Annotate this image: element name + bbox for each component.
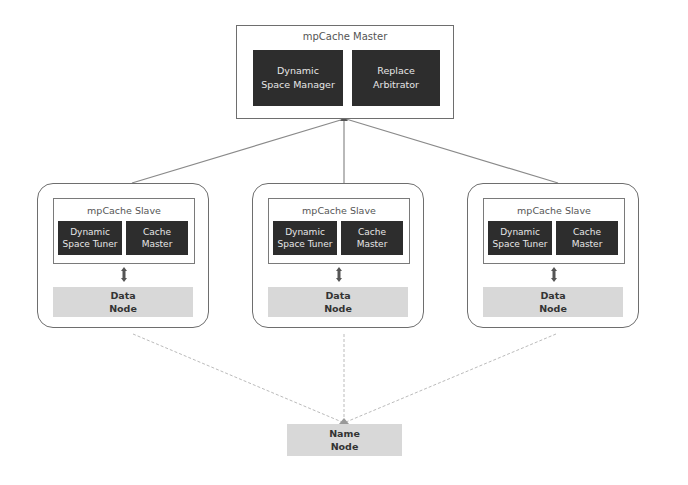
name-node: Name Node — [287, 424, 402, 456]
master-to-slave3-line — [346, 119, 558, 183]
bidirectional-arrow-icon — [121, 267, 127, 282]
dynamic-space-manager-component: Dynamic Space Manager — [253, 50, 343, 106]
data-node: Data Node — [268, 287, 408, 317]
slave-title: mpCache Slave — [269, 205, 409, 216]
mpcache-master-box: mpCache Master Dynamic Space Manager Rep… — [236, 25, 454, 119]
bidirectional-arrow-icon — [336, 267, 342, 282]
dynamic-space-tuner-component: Dynamic Space Tuner — [58, 221, 122, 255]
component-label-line2: Space Tuner — [277, 238, 332, 250]
dynamic-space-tuner-component: Dynamic Space Tuner — [273, 221, 337, 255]
slave3-to-namenode-line — [346, 334, 556, 422]
data-node-label-line1: Data — [540, 289, 565, 302]
bidirectional-arrow-icon — [551, 267, 557, 282]
mpcache-slave-box: mpCache Slave Dynamic Space Tuner Cache … — [483, 198, 625, 264]
component-label-line2: Arbitrator — [373, 78, 419, 92]
mpcache-slave-box: mpCache Slave Dynamic Space Tuner Cache … — [53, 198, 195, 264]
slave1-to-namenode-line — [133, 334, 342, 422]
slave-title: mpCache Slave — [484, 205, 624, 216]
component-label-line1: Cache — [358, 226, 386, 238]
component-label-line1: Dynamic — [500, 226, 540, 238]
data-node-label-line1: Data — [110, 289, 135, 302]
replace-arbitrator-component: Replace Arbitrator — [352, 50, 440, 106]
cache-master-component: Cache Master — [556, 221, 618, 255]
component-label-line1: Cache — [573, 226, 601, 238]
component-label-line2: Master — [142, 238, 173, 250]
master-to-slave1-line — [132, 119, 344, 183]
slave-title: mpCache Slave — [54, 205, 194, 216]
data-node: Data Node — [53, 287, 193, 317]
component-label-line1: Dynamic — [70, 226, 110, 238]
component-label-line1: Replace — [377, 64, 415, 78]
data-node: Data Node — [483, 287, 623, 317]
slave-node-1: mpCache Slave Dynamic Space Tuner Cache … — [37, 183, 209, 328]
slave-node-2: mpCache Slave Dynamic Space Tuner Cache … — [252, 183, 424, 328]
component-label-line1: Cache — [143, 226, 171, 238]
data-node-label-line2: Node — [324, 302, 352, 315]
component-label-line2: Master — [357, 238, 388, 250]
slave-node-3: mpCache Slave Dynamic Space Tuner Cache … — [467, 183, 639, 328]
data-node-label-line2: Node — [539, 302, 567, 315]
mpcache-slave-box: mpCache Slave Dynamic Space Tuner Cache … — [268, 198, 410, 264]
component-label-line1: Dynamic — [277, 64, 319, 78]
component-label-line2: Space Tuner — [492, 238, 547, 250]
dynamic-space-tuner-component: Dynamic Space Tuner — [488, 221, 552, 255]
component-label-line1: Dynamic — [285, 226, 325, 238]
name-node-label-line2: Node — [331, 440, 359, 453]
master-title: mpCache Master — [237, 31, 453, 42]
data-node-label-line2: Node — [109, 302, 137, 315]
data-node-label-line1: Data — [325, 289, 350, 302]
component-label-line2: Master — [572, 238, 603, 250]
cache-master-component: Cache Master — [126, 221, 188, 255]
name-node-label-line1: Name — [329, 427, 360, 440]
component-label-line2: Space Tuner — [62, 238, 117, 250]
component-label-line2: Space Manager — [261, 78, 335, 92]
cache-master-component: Cache Master — [341, 221, 403, 255]
